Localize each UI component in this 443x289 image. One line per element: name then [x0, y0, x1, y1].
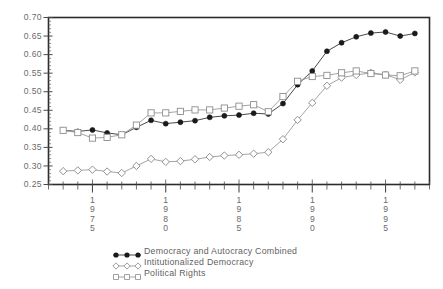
chart-figure: 0.700.650.600.550.500.450.400.350.300.25… — [0, 0, 443, 289]
legend-item-label: Political Rights — [142, 268, 206, 278]
y-axis-tick-label: 0.45 — [2, 105, 42, 115]
legend-item: Political Rights — [112, 268, 412, 278]
y-axis-tick-label: 0.35 — [2, 142, 42, 152]
legend-item-label: Intitutionalized Democracy — [142, 257, 254, 267]
x-axis-tick-label: 1975 — [86, 196, 98, 234]
y-axis-tick-label: 0.40 — [2, 123, 42, 133]
legend-marker-open-diamond-icon — [112, 257, 142, 267]
legend-item-label: Democracy and Autocracy Combined — [142, 246, 297, 256]
y-axis-tick-label: 0.65 — [2, 31, 42, 41]
legend-marker-open-square-icon — [112, 268, 142, 278]
chart-legend: Democracy and Autocracy Combined Intitut… — [112, 246, 412, 279]
y-axis-tick-label: 0.30 — [2, 161, 42, 171]
y-axis-tick-label: 0.25 — [2, 179, 42, 189]
legend-item: Democracy and Autocracy Combined — [112, 246, 412, 256]
plot-frame — [49, 18, 430, 185]
y-axis-tick-label: 0.50 — [2, 86, 42, 96]
x-axis-tick-label: 1990 — [306, 196, 318, 234]
legend-marker-filled-circle-icon — [112, 246, 142, 256]
x-axis-tick-label: 1980 — [160, 196, 172, 234]
x-axis-tick-label: 1995 — [380, 196, 392, 234]
plot-frame-border — [49, 18, 430, 185]
y-axis-tick-label: 0.70 — [2, 12, 42, 22]
x-axis-tick-label: 1985 — [233, 196, 245, 234]
y-axis-tick-label: 0.55 — [2, 68, 42, 78]
legend-item: Intitutionalized Democracy — [112, 257, 412, 267]
y-axis-tick-label: 0.60 — [2, 49, 42, 59]
